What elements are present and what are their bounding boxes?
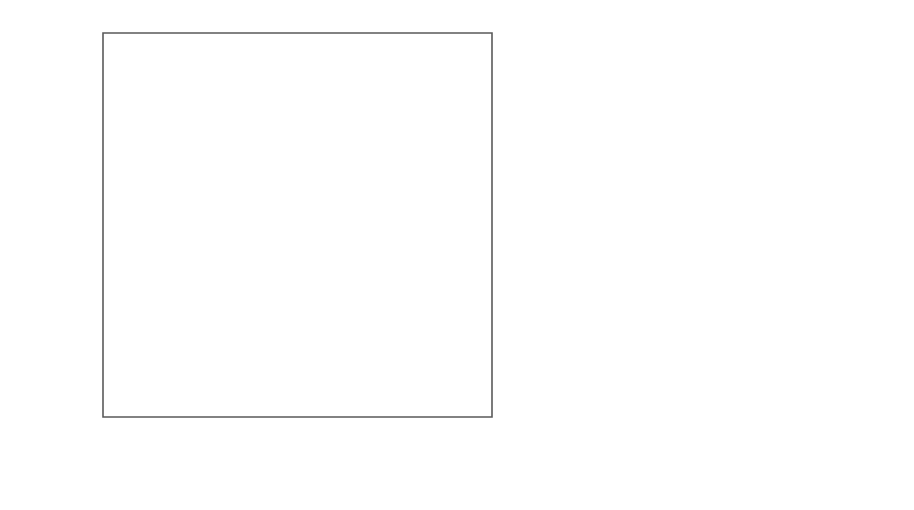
plot-canvas	[0, 0, 914, 510]
plot-frame-a	[103, 33, 492, 417]
panel-a	[103, 33, 492, 417]
figure-root	[0, 0, 914, 510]
